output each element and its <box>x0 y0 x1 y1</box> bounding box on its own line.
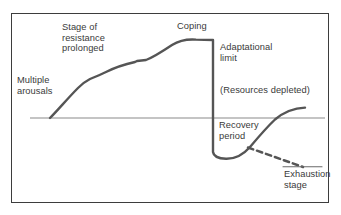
stress-curve-figure: Multiple arousals Stage of resistance pr… <box>0 0 341 215</box>
label-resources-depleted: (Resources depleted) <box>220 85 310 96</box>
label-stage-of-resistance-prolonged: Stage of resistance prolonged <box>62 22 105 54</box>
label-exhaustion-stage: Exhaustion stage <box>284 169 331 190</box>
label-recovery-period: Recovery period <box>219 120 259 141</box>
label-adaptational-limit: Adaptational limit <box>220 42 272 63</box>
label-coping: Coping <box>177 21 207 32</box>
figure-border <box>11 13 329 203</box>
label-multiple-arousals: Multiple arousals <box>17 75 53 96</box>
